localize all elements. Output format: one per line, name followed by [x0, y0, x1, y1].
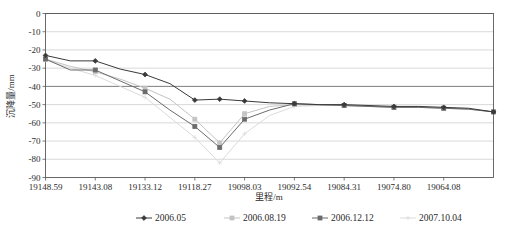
x-tick-label: 19064.08 — [427, 182, 461, 192]
data-point-marker — [217, 97, 222, 102]
data-point-marker — [193, 124, 197, 128]
x-tick-label: 19118.27 — [178, 182, 212, 192]
chart-canvas: 0-10-20-30-40-50-60-70-80-90 19148.59191… — [0, 0, 512, 239]
data-point-marker — [143, 72, 148, 77]
y-axis-title: 沉降量/mm — [5, 74, 16, 118]
y-tick-label: -60 — [29, 118, 41, 128]
y-tick-label: -10 — [29, 27, 41, 37]
settlement-line-chart: 0-10-20-30-40-50-60-70-80-90 19148.59191… — [0, 0, 512, 239]
data-point-marker — [142, 216, 147, 221]
y-tick-label: 0 — [36, 9, 41, 19]
plot-area-border — [46, 14, 494, 178]
data-point-marker — [93, 68, 97, 72]
y-tick-label: -30 — [29, 63, 41, 73]
tickmarks-group — [43, 14, 444, 181]
gridlines-group — [46, 14, 494, 178]
series-2006-08-19 — [44, 57, 496, 145]
series-2006-05 — [43, 53, 496, 114]
x-tick-label: 19133.12 — [128, 182, 162, 192]
data-point-marker — [318, 216, 322, 220]
x-tick-label: 19092.54 — [278, 182, 312, 192]
legend-item-2006-08-19[interactable]: 2006.08.19 — [224, 213, 286, 223]
series-polyline — [46, 60, 494, 163]
x-tick-label: 19148.59 — [29, 182, 63, 192]
data-point-marker — [230, 216, 234, 220]
x-tick-label: 19074.80 — [377, 182, 411, 192]
data-point-marker — [218, 145, 222, 149]
legend-label: 2006.05 — [155, 213, 186, 223]
legend-label: 2007.10.04 — [419, 213, 462, 223]
y-tick-label: -50 — [29, 100, 41, 110]
y-tick-label: -80 — [29, 154, 41, 164]
data-point-marker — [242, 99, 247, 104]
y-tick-label: -70 — [29, 136, 41, 146]
series-polyline — [46, 59, 494, 143]
legend-item-2006-12-12[interactable]: 2006.12.12 — [312, 213, 374, 223]
y-axis-tick-labels: 0-10-20-30-40-50-60-70-80-90 — [29, 9, 42, 183]
series-polyline — [46, 55, 494, 111]
series-2007-10-04 — [43, 58, 495, 165]
x-tick-label: 19098.03 — [228, 182, 262, 192]
data-point-marker — [406, 216, 410, 220]
legend-item-2006-05[interactable]: 2006.05 — [136, 213, 186, 223]
data-point-marker — [243, 112, 247, 116]
legend-label: 2006.08.19 — [243, 213, 286, 223]
y-tick-label: -20 — [29, 45, 41, 55]
x-axis-tick-labels: 19148.5919143.0819133.1219118.2719098.03… — [29, 182, 461, 192]
legend-item-2007-10-04[interactable]: 2007.10.04 — [400, 213, 462, 223]
x-axis-title: 里程/m — [255, 192, 283, 202]
series-group — [43, 53, 496, 165]
data-point-marker — [243, 117, 247, 121]
data-point-marker — [193, 117, 197, 121]
y-tick-label: -40 — [29, 82, 41, 92]
x-tick-label: 19084.31 — [327, 182, 361, 192]
x-tick-label: 19143.08 — [78, 182, 112, 192]
data-point-marker — [143, 90, 147, 94]
chart-legend: 2006.052006.08.192006.12.122007.10.04 — [136, 213, 462, 223]
data-point-marker — [218, 141, 222, 145]
data-point-marker — [93, 58, 98, 63]
legend-label: 2006.12.12 — [331, 213, 374, 223]
